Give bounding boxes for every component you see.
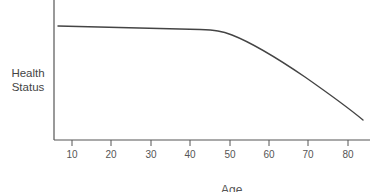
x-tick-70: 70 — [302, 149, 313, 160]
plot-area — [0, 0, 377, 192]
x-tick-80: 80 — [342, 149, 353, 160]
x-axis-label: Age — [221, 183, 242, 192]
x-tick-30: 30 — [145, 149, 156, 160]
x-tick-10: 10 — [66, 149, 77, 160]
x-tick-50: 50 — [224, 149, 235, 160]
x-tick-20: 20 — [105, 149, 116, 160]
x-tick-40: 40 — [184, 149, 195, 160]
health-status-curve — [58, 26, 363, 120]
x-axis-ticks — [72, 140, 348, 146]
x-tick-60: 60 — [263, 149, 274, 160]
